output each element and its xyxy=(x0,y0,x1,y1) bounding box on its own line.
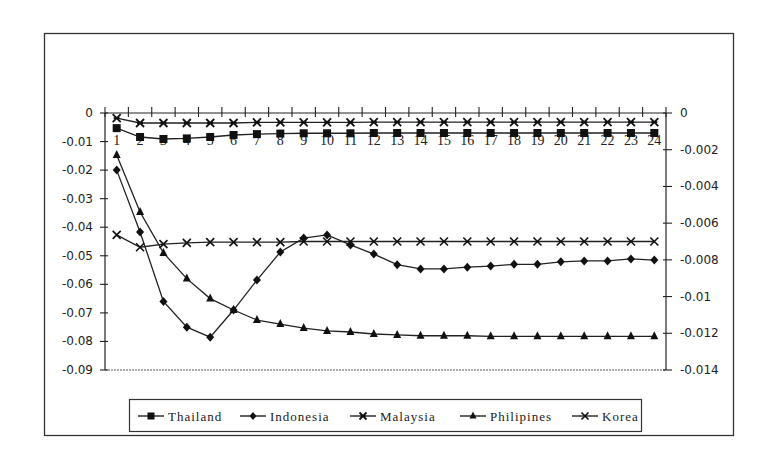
series-line xyxy=(117,128,655,139)
square-marker xyxy=(533,129,541,137)
x-marker xyxy=(113,231,121,239)
square-marker xyxy=(276,130,284,138)
series-line xyxy=(117,118,655,123)
right-tick-label: 0 xyxy=(680,106,688,120)
triangle-marker xyxy=(440,331,448,339)
chart-frame xyxy=(45,34,734,436)
triangle-marker xyxy=(510,331,518,339)
series-line xyxy=(117,170,655,337)
star-marker xyxy=(276,118,284,126)
triangle-marker xyxy=(323,326,331,334)
triangle-marker xyxy=(650,331,658,339)
left-tick-label: -0.07 xyxy=(62,306,93,320)
triangle-marker xyxy=(487,331,495,339)
line-chart: 0-0.01-0.02-0.03-0.04-0.05-0.06-0.07-0.0… xyxy=(0,0,767,460)
square-marker xyxy=(113,124,121,132)
triangle-marker xyxy=(113,150,121,158)
star-marker xyxy=(510,118,518,126)
diamond-marker xyxy=(627,254,635,263)
square-marker xyxy=(300,129,308,137)
star-marker xyxy=(230,119,238,127)
diamond-marker xyxy=(557,257,565,266)
star-marker xyxy=(346,118,354,126)
triangle-marker xyxy=(463,331,471,339)
triangle-marker xyxy=(136,207,144,215)
plot-area: 0-0.01-0.02-0.03-0.04-0.05-0.06-0.07-0.0… xyxy=(62,106,719,377)
triangle-marker xyxy=(557,331,565,339)
left-tick-label: -0.01 xyxy=(62,135,93,149)
diamond-marker xyxy=(510,260,518,269)
right-tick-label: -0.014 xyxy=(680,363,719,377)
square-marker xyxy=(230,131,238,139)
star-marker xyxy=(650,118,658,126)
star-marker xyxy=(440,118,448,126)
square-marker xyxy=(627,129,635,137)
diamond-marker xyxy=(393,260,401,269)
square-marker xyxy=(510,129,518,137)
legend-label: Korea xyxy=(602,409,639,424)
left-tick-label: -0.09 xyxy=(62,363,93,377)
right-tick-label: -0.008 xyxy=(680,253,719,267)
star-marker xyxy=(417,118,425,126)
star-marker xyxy=(627,118,635,126)
square-marker xyxy=(148,413,155,420)
diamond-marker xyxy=(113,166,121,175)
diamond-marker xyxy=(487,262,495,271)
left-axis-ticks: 0-0.01-0.02-0.03-0.04-0.05-0.06-0.07-0.0… xyxy=(62,106,108,377)
star-marker xyxy=(206,119,214,127)
left-tick-label: -0.04 xyxy=(62,220,93,234)
star-marker xyxy=(487,118,495,126)
square-marker xyxy=(136,133,144,141)
square-marker xyxy=(346,129,354,137)
right-axis-ticks: 0-0.002-0.004-0.006-0.008-0.01-0.012-0.0… xyxy=(663,106,719,377)
triangle-marker xyxy=(206,294,214,302)
series-line xyxy=(117,235,655,247)
square-marker xyxy=(183,134,191,142)
right-tick-label: -0.006 xyxy=(680,216,719,230)
series-korea xyxy=(113,231,659,251)
triangle-marker xyxy=(580,331,588,339)
triangle-marker xyxy=(627,331,635,339)
star-marker xyxy=(557,118,565,126)
left-tick-label: -0.05 xyxy=(62,249,93,263)
diamond-marker xyxy=(417,264,425,273)
square-marker xyxy=(650,129,658,137)
square-marker xyxy=(487,129,495,137)
series-indonesia xyxy=(113,166,659,342)
square-marker xyxy=(393,129,401,137)
left-tick-label: -0.06 xyxy=(62,277,93,291)
square-marker xyxy=(417,129,425,137)
triangle-marker xyxy=(346,327,354,335)
star-marker xyxy=(580,118,588,126)
triangle-marker xyxy=(370,329,378,337)
triangle-marker xyxy=(393,330,401,338)
square-marker xyxy=(604,129,612,137)
diamond-marker xyxy=(604,256,612,265)
star-marker xyxy=(323,118,331,126)
legend-label: Indonesia xyxy=(270,409,330,424)
left-tick-label: -0.03 xyxy=(62,192,93,206)
diamond-marker xyxy=(533,260,541,269)
square-marker xyxy=(253,130,261,138)
star-marker xyxy=(159,119,167,127)
triangle-marker xyxy=(604,331,612,339)
right-tick-label: -0.01 xyxy=(680,290,711,304)
star-marker xyxy=(113,114,121,122)
star-marker xyxy=(136,119,144,127)
diamond-marker xyxy=(580,256,588,265)
star-marker xyxy=(183,119,191,127)
series-layer xyxy=(113,114,659,342)
right-tick-label: -0.002 xyxy=(680,143,719,157)
diamond-marker xyxy=(440,264,448,273)
square-marker xyxy=(580,129,588,137)
diamond-marker xyxy=(136,228,144,237)
legend: ThailandIndonesiaMalaysiaPhilipinesKorea xyxy=(130,400,642,432)
diamond-marker xyxy=(370,250,378,259)
series-line xyxy=(117,155,655,336)
legend-label: Malaysia xyxy=(380,409,436,424)
series-philipines xyxy=(113,150,659,339)
square-marker xyxy=(370,129,378,137)
square-marker xyxy=(557,129,565,137)
square-marker xyxy=(440,129,448,137)
right-tick-label: -0.012 xyxy=(680,326,719,340)
